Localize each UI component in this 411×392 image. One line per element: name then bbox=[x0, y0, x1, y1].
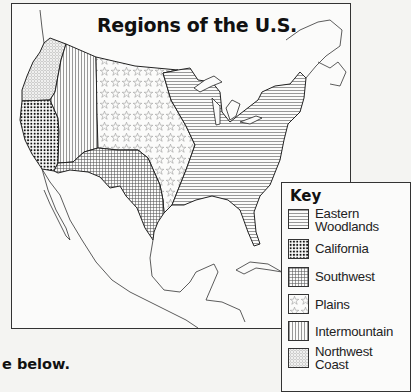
legend-label-line2: Woodlands bbox=[315, 220, 379, 233]
small-circles-swatch-icon bbox=[288, 348, 309, 368]
legend-label: California bbox=[315, 242, 369, 255]
stars-swatch-icon bbox=[288, 294, 309, 314]
dots-swatch-icon bbox=[288, 239, 309, 259]
legend: Key Eastern Woodlands California Southwe… bbox=[281, 182, 411, 392]
vertical-lines-swatch-icon bbox=[288, 321, 309, 341]
horizontal-lines-swatch-icon bbox=[288, 209, 309, 229]
legend-title: Key bbox=[290, 187, 321, 205]
northwest-coastline bbox=[40, 10, 44, 43]
cuba-coastline bbox=[236, 262, 282, 274]
baja-coastline bbox=[42, 169, 70, 240]
region-california bbox=[20, 100, 59, 171]
grid-swatch-icon bbox=[288, 267, 309, 287]
legend-label-line2: Coast bbox=[315, 358, 348, 371]
region-southwest bbox=[54, 148, 164, 240]
legend-label: Intermountain bbox=[315, 325, 393, 338]
instruction-text-fragment: e below. bbox=[2, 356, 70, 372]
legend-label: Southwest bbox=[315, 270, 375, 283]
map-title: Regions of the U.S. bbox=[97, 14, 297, 36]
legend-label: Plains bbox=[315, 298, 350, 311]
